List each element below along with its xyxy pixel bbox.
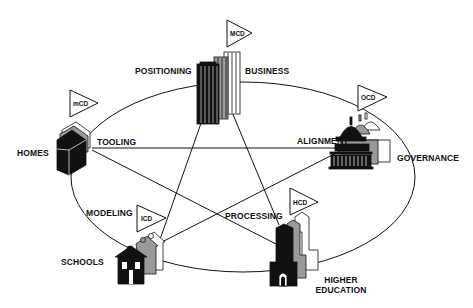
node-label-governance: GOVERNANCE [397, 153, 459, 163]
edge-label-alignment: ALIGNMENT [297, 136, 348, 146]
node-label-higher-education-line2: EDUCATION [313, 285, 369, 295]
flag-label: mCD [73, 100, 88, 107]
diagram-canvas: MCD OCD HCD ICD mCD [0, 0, 473, 308]
university-tower-icon [270, 212, 318, 286]
flag-label: HCD [293, 199, 307, 206]
node-label-schools: SCHOOLS [61, 257, 104, 267]
flag-label: OCD [361, 94, 376, 101]
flag-label: MCD [230, 30, 245, 37]
skyscraper-icon [197, 52, 240, 124]
node-label-business: BUSINESS [245, 66, 289, 76]
schoolhouse-icon [115, 232, 165, 284]
flag-ocd-governance: OCD [358, 85, 387, 111]
connection-business-higher-education [232, 112, 279, 225]
flag-icd-schools: ICD [137, 205, 166, 232]
node-label-higher-education-line1: HIGHER [313, 275, 369, 285]
edge-label-positioning: POSITIONING [135, 66, 192, 76]
connection-homes-higher-education [92, 150, 276, 244]
edge-label-processing: PROCESSING [225, 211, 283, 221]
house-icon [57, 122, 90, 175]
outer-ellipse [71, 82, 415, 272]
flag-hcd-higher-education: HCD [290, 188, 318, 215]
edge-label-tooling: TOOLING [97, 137, 136, 147]
connection-business-schools [158, 112, 205, 245]
connection-schools-governance [160, 150, 342, 243]
flag-mcd-business: MCD [227, 20, 252, 47]
edge-label-modeling: MODELING [86, 208, 133, 218]
flag-label: ICD [141, 215, 153, 222]
node-label-homes: HOMES [17, 148, 49, 158]
flag-mcd-homes: mCD [70, 90, 98, 117]
